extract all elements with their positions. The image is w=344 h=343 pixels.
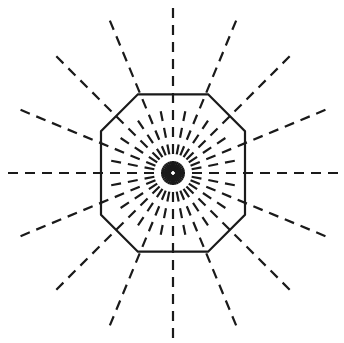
radial-octagon-figure bbox=[0, 0, 344, 343]
diagram-canvas bbox=[0, 0, 344, 343]
